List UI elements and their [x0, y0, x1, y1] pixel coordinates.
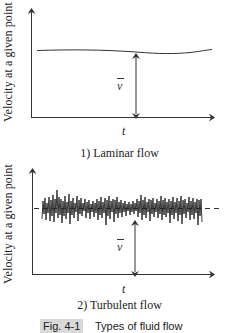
y-axis-label: Velocity at a given point: [0, 162, 16, 286]
turbulent-plot: [0, 0, 225, 310]
figure-caption: Fig. 4-1 Types of fluid flow: [0, 319, 225, 333]
turbulent-flow-panel: Velocity at a given point v t 2) Turbule…: [0, 0, 225, 310]
turbulent-subcaption: 2) Turbulent flow: [0, 298, 225, 312]
figure-number: Fig. 4-1: [40, 319, 83, 333]
x-axis-label: t: [122, 283, 125, 295]
figure-title: Types of fluid flow: [95, 319, 182, 333]
mean-velocity-label: v: [117, 241, 122, 253]
turbulent-velocity-signal: [42, 190, 202, 225]
